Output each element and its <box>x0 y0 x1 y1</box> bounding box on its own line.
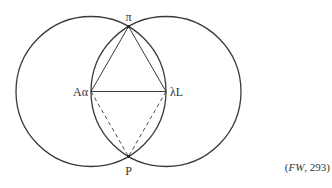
caption-page: , 293) <box>304 161 330 174</box>
label-lambda: λL <box>170 85 183 99</box>
label-p: P <box>125 164 132 178</box>
edge-right-to-top <box>129 27 167 92</box>
label-alpha: Aα <box>73 85 89 99</box>
point-top <box>127 25 130 28</box>
label-pi: π <box>125 10 131 24</box>
vesica-piscis-diagram: π Aα λL P (FW, 293) <box>0 0 332 188</box>
point-bottom <box>127 155 130 158</box>
caption-source: FW <box>287 161 305 173</box>
caption: (FW, 293) <box>285 161 331 174</box>
dashed-edge-left-to-bottom <box>91 92 129 157</box>
dashed-edge-right-to-bottom <box>129 92 167 157</box>
edge-left-to-top <box>91 27 129 92</box>
